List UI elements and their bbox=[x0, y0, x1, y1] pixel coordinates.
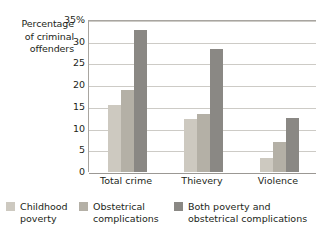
axis-baseline bbox=[89, 173, 316, 174]
y-axis-tick-label: 0 bbox=[52, 167, 85, 177]
plot-area bbox=[88, 20, 316, 172]
y-axis-tick-label: 30 bbox=[52, 37, 85, 47]
bar-chart-figure: Percentage of criminal offenders 35%3025… bbox=[0, 0, 322, 240]
y-axis-tick-label: 25 bbox=[52, 58, 85, 68]
bar[interactable] bbox=[273, 142, 286, 172]
y-axis-tick-label: 15 bbox=[52, 102, 85, 112]
bar[interactable] bbox=[286, 118, 299, 172]
bar[interactable] bbox=[210, 49, 223, 172]
x-axis-category-label: Violence bbox=[240, 175, 316, 187]
bar[interactable] bbox=[184, 119, 197, 172]
y-axis-tick-label: 35% bbox=[52, 15, 85, 25]
bar[interactable] bbox=[260, 158, 273, 172]
x-axis-category-labels: Total crimeThieveryViolence bbox=[88, 175, 316, 189]
bar-group bbox=[184, 21, 223, 172]
bar[interactable] bbox=[121, 90, 134, 172]
chart-legend: Childhood povertyObstetrical complicatio… bbox=[6, 201, 322, 235]
bar[interactable] bbox=[108, 105, 121, 172]
bars-layer bbox=[89, 21, 316, 172]
legend-item[interactable]: Childhood poverty bbox=[6, 201, 68, 226]
legend-color-swatch bbox=[79, 202, 88, 211]
legend-label: Obstetrical complications bbox=[93, 201, 159, 226]
legend-label: Both poverty and obstetrical complicatio… bbox=[188, 201, 307, 226]
bar-group bbox=[260, 21, 299, 172]
y-axis-tick-label: 5 bbox=[52, 145, 85, 155]
bar-group bbox=[108, 21, 147, 172]
legend-item[interactable]: Both poverty and obstetrical complicatio… bbox=[174, 201, 307, 226]
legend-color-swatch bbox=[174, 202, 183, 211]
x-axis-category-label: Thievery bbox=[164, 175, 240, 187]
bar[interactable] bbox=[134, 30, 147, 172]
legend-label: Childhood poverty bbox=[20, 201, 68, 226]
y-axis-tick-label: 10 bbox=[52, 124, 85, 134]
legend-color-swatch bbox=[6, 202, 15, 211]
y-axis-tick-label: 20 bbox=[52, 80, 85, 90]
legend-item[interactable]: Obstetrical complications bbox=[79, 201, 159, 226]
bar[interactable] bbox=[197, 114, 210, 172]
x-axis-category-label: Total crime bbox=[88, 175, 164, 187]
